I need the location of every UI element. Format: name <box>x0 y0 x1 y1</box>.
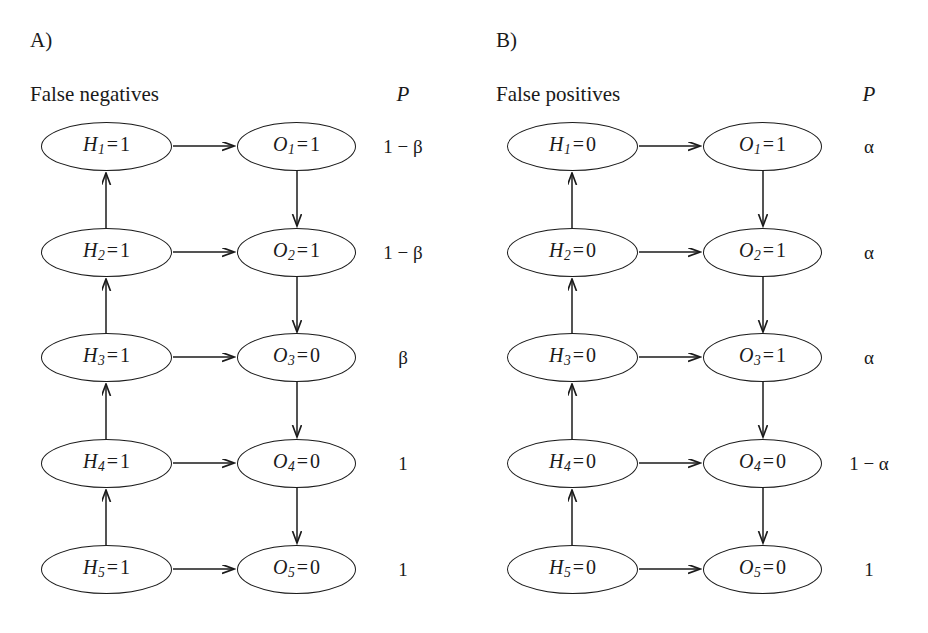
probability-value: 1 − α <box>832 454 906 473</box>
node-observation[interactable]: O5=0 <box>237 545 356 594</box>
probability-value: α <box>832 137 906 156</box>
node-hypothesis-label: H5=1 <box>83 556 130 582</box>
node-hypothesis[interactable]: H4=1 <box>41 439 172 488</box>
node-observation[interactable]: O4=0 <box>237 439 356 488</box>
node-observation-label: O1=1 <box>739 133 786 159</box>
panel-b-edges <box>466 0 928 633</box>
node-hypothesis-label: H4=1 <box>83 450 130 476</box>
probability-value: α <box>832 348 906 367</box>
panel-b-graph: H1=0 O1=1 α H2=0 O2=1 α H3=0 O3=1 α H4=0 <box>466 0 928 633</box>
node-hypothesis[interactable]: H4=0 <box>507 439 638 488</box>
node-hypothesis[interactable]: H2=1 <box>41 228 172 277</box>
node-observation-label: O5=0 <box>739 556 786 582</box>
node-hypothesis-label: H3=0 <box>549 344 596 370</box>
panel-a-graph: H1=1 O1=1 1 − β H2=1 O2=1 1 − β H3=1 O3=… <box>0 0 464 633</box>
node-observation-label: O1=1 <box>273 133 320 159</box>
node-hypothesis[interactable]: H5=0 <box>507 545 638 594</box>
panel-a-edges <box>0 0 464 633</box>
node-observation[interactable]: O3=1 <box>703 333 822 382</box>
probability-value: 1 <box>832 560 906 579</box>
probability-value: 1 <box>366 454 440 473</box>
node-hypothesis[interactable]: H1=1 <box>41 122 172 171</box>
node-hypothesis-label: H1=0 <box>549 133 596 159</box>
node-hypothesis-label: H1=1 <box>83 133 130 159</box>
node-observation-label: O2=1 <box>273 239 320 265</box>
node-observation-label: O3=1 <box>739 344 786 370</box>
node-hypothesis[interactable]: H5=1 <box>41 545 172 594</box>
panel-b: B) False positives P <box>466 0 928 633</box>
probability-value: β <box>366 348 440 367</box>
node-observation[interactable]: O2=1 <box>237 228 356 277</box>
node-hypothesis-label: H5=0 <box>549 556 596 582</box>
figure-root: A) False negatives P <box>0 0 928 633</box>
node-observation-label: O5=0 <box>273 556 320 582</box>
node-hypothesis[interactable]: H3=1 <box>41 333 172 382</box>
probability-value: α <box>832 243 906 262</box>
node-hypothesis-label: H2=0 <box>549 239 596 265</box>
probability-value: 1 − β <box>366 137 440 156</box>
node-observation[interactable]: O2=1 <box>703 228 822 277</box>
probability-value: 1 <box>366 560 440 579</box>
node-hypothesis[interactable]: H2=0 <box>507 228 638 277</box>
node-hypothesis-label: H3=1 <box>83 344 130 370</box>
node-observation[interactable]: O5=0 <box>703 545 822 594</box>
node-observation-label: O4=0 <box>739 450 786 476</box>
node-observation[interactable]: O1=1 <box>237 122 356 171</box>
node-hypothesis[interactable]: H1=0 <box>507 122 638 171</box>
node-observation[interactable]: O4=0 <box>703 439 822 488</box>
node-observation-label: O4=0 <box>273 450 320 476</box>
node-hypothesis-label: H2=1 <box>83 239 130 265</box>
node-observation[interactable]: O3=0 <box>237 333 356 382</box>
node-observation-label: O3=0 <box>273 344 320 370</box>
node-observation-label: O2=1 <box>739 239 786 265</box>
probability-value: 1 − β <box>366 243 440 262</box>
node-observation[interactable]: O1=1 <box>703 122 822 171</box>
panel-a: A) False negatives P <box>0 0 464 633</box>
node-hypothesis-label: H4=0 <box>549 450 596 476</box>
node-hypothesis[interactable]: H3=0 <box>507 333 638 382</box>
